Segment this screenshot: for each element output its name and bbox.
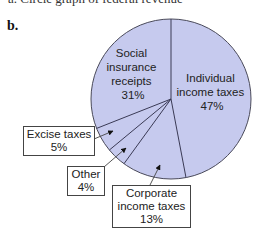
callout-other-pct: 4% [68,181,104,194]
callout-corporate-label: Corporate [113,187,190,200]
callout-excise-label: Excise taxes [24,128,94,141]
callout-excise: Excise taxes 5% [23,126,95,156]
callout-corporate-label-2: income taxes [113,200,190,213]
callout-other: Other 4% [67,166,105,196]
callout-other-label: Other [68,168,104,181]
callout-corporate: Corporate income taxes 13% [112,185,191,228]
callout-corporate-pct: 13% [113,213,190,226]
callout-excise-pct: 5% [24,141,94,154]
